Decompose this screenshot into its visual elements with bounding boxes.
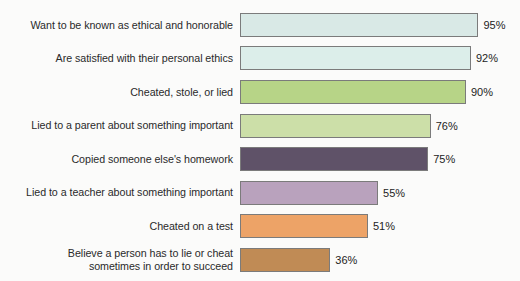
bar-category-label: Lied to a parent about something importa… (0, 119, 240, 132)
bar-category-label: Believe a person has to lie or cheat som… (0, 247, 240, 272)
bar[interactable] (240, 248, 330, 272)
bar-track: 76% (240, 109, 520, 143)
chart-rows: Want to be known as ethical and honorabl… (0, 8, 520, 277)
bar-category-label: Cheated on a test (0, 220, 240, 233)
bar-track: 90% (240, 75, 520, 109)
bar-category-label: Copied someone else's homework (0, 153, 240, 166)
bar[interactable] (240, 181, 378, 205)
bar-track: 92% (240, 42, 520, 76)
bar-value-label: 36% (335, 254, 357, 266)
chart-row: Believe a person has to lie or cheat som… (0, 243, 520, 277)
bar[interactable] (240, 147, 428, 171)
chart-row: Cheated, stole, or lied 90% (0, 75, 520, 109)
bar[interactable] (240, 114, 431, 138)
bar-track: 36% (240, 243, 520, 277)
chart-row: Lied to a teacher about something import… (0, 176, 520, 210)
chart-row: Lied to a parent about something importa… (0, 109, 520, 143)
bar-category-label: Cheated, stole, or lied (0, 86, 240, 99)
chart-row: Copied someone else's homework 75% (0, 142, 520, 176)
bar[interactable] (240, 13, 478, 37)
chart-row: Want to be known as ethical and honorabl… (0, 8, 520, 42)
bar-value-label: 75% (433, 153, 455, 165)
bar-category-label: Are satisfied with their personal ethics (0, 52, 240, 65)
bar-value-label: 76% (436, 120, 458, 132)
bar-category-label: Want to be known as ethical and honorabl… (0, 19, 240, 32)
bar-value-label: 51% (373, 220, 395, 232)
chart-row: Are satisfied with their personal ethics… (0, 42, 520, 76)
bar-track: 75% (240, 142, 520, 176)
bar-value-label: 90% (471, 86, 493, 98)
bar-track: 95% (240, 8, 520, 42)
bar-value-label: 95% (483, 19, 505, 31)
bar[interactable] (240, 46, 471, 70)
bar-track: 55% (240, 176, 520, 210)
bar-value-label: 55% (383, 187, 405, 199)
chart-row: Cheated on a test 51% (0, 210, 520, 244)
bar[interactable] (240, 80, 466, 104)
bar[interactable] (240, 214, 368, 238)
bar-value-label: 92% (476, 52, 498, 64)
bar-track: 51% (240, 210, 520, 244)
bar-category-label: Lied to a teacher about something import… (0, 186, 240, 199)
bar-chart: Want to be known as ethical and honorabl… (0, 0, 520, 281)
